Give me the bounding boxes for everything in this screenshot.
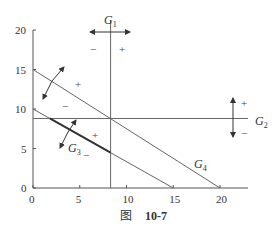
caption-prefix: 图 (120, 209, 132, 223)
g1-label: G1 (104, 13, 117, 29)
g2-minus: − (241, 127, 247, 139)
y-tick-label: 20 (15, 24, 27, 36)
goal-programming-diagram: 0510152005101520 G1 − + G2 + − + − G4 G3… (0, 0, 277, 235)
x-tick-label: 0 (29, 193, 35, 205)
x-tick-label: 20 (216, 193, 228, 205)
g3-label: G3 (68, 141, 81, 157)
g3-plus: + (92, 129, 98, 141)
x-tick-label: 15 (169, 193, 181, 205)
g4-label: G4 (194, 157, 207, 173)
g2-plus: + (241, 97, 247, 109)
x-tick-label: 10 (123, 193, 135, 205)
g4-arrow-up (52, 67, 64, 81)
g2-label: G2 (255, 114, 268, 130)
y-tick-label: 5 (21, 143, 27, 155)
y-tick-label: 10 (15, 103, 27, 115)
g3-minus: − (83, 149, 89, 161)
y-tick-label: 15 (15, 64, 27, 76)
g4-line (33, 70, 220, 189)
g3-arrow-down (60, 132, 68, 148)
g4-plus: + (75, 78, 81, 90)
g1-minus: − (90, 43, 96, 55)
g4-arrow-down (43, 81, 52, 99)
y-tick-label: 0 (21, 182, 27, 194)
g1-plus: + (119, 43, 125, 55)
g4-minus: − (62, 100, 68, 112)
caption-number: 10-7 (145, 209, 167, 223)
x-tick-label: 5 (76, 193, 82, 205)
